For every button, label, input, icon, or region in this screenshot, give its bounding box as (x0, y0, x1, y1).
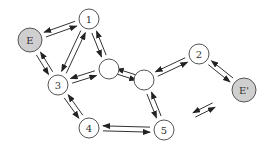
node-E: E (18, 28, 42, 52)
arrow-forward (36, 55, 48, 75)
arrow-reverse (44, 21, 75, 32)
node-label: 4 (86, 123, 92, 134)
arrow-reverse (68, 95, 83, 115)
node-unlabeled (99, 59, 119, 79)
node-unlabeled (134, 70, 154, 90)
arrow-reverse (193, 103, 213, 113)
arrow-forward (64, 98, 79, 118)
arrow-forward (195, 107, 215, 117)
arrow-forward (66, 33, 85, 74)
node-label: 3 (55, 80, 61, 91)
node-3: 3 (48, 75, 68, 95)
arrow-forward (103, 131, 150, 132)
arrow-forward (158, 62, 188, 76)
node-label: E (26, 35, 33, 46)
arrow-reverse (117, 69, 138, 76)
arrow-forward (115, 74, 136, 81)
reaction-diagram: E1342E'5 (0, 0, 273, 148)
arrow-reverse (152, 92, 162, 116)
node-circle (99, 59, 119, 79)
arrow-reverse (103, 126, 150, 127)
arrow-reverse (156, 58, 186, 72)
arrow-forward (92, 33, 102, 57)
arrow-reverse (97, 31, 107, 55)
node-label: 2 (196, 49, 202, 60)
node-5: 5 (154, 120, 174, 140)
node-2: 2 (189, 44, 209, 64)
node-Eprime: E' (232, 78, 256, 102)
arrow-reverse (41, 52, 53, 72)
node-4: 4 (79, 118, 99, 138)
node-circle (134, 70, 154, 90)
node-label: E' (239, 85, 249, 96)
node-label: 5 (161, 125, 167, 136)
arrow-forward (46, 26, 77, 37)
arrow-forward (147, 94, 157, 118)
diagram-svg: E1342E'5 (0, 0, 273, 148)
node-label: 1 (86, 14, 92, 25)
node-1: 1 (79, 9, 99, 29)
arrow-reverse (62, 31, 81, 72)
